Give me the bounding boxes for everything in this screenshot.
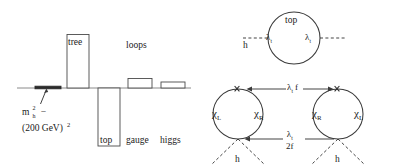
left-loop-field-left: χL xyxy=(212,108,221,122)
right-loop-higgs-leg-b xyxy=(338,139,365,165)
chi-loops-bottom-coupling-numerator-subscript: t xyxy=(291,135,293,141)
group-label-loops: loops xyxy=(126,41,147,51)
mh2-annotation-base: m xyxy=(22,107,29,117)
figure-root: tree loops top gauge higgs m 2 h − (200 … xyxy=(0,0,396,168)
mh2-annotation-gev-superscript: 2 xyxy=(63,121,70,128)
right-loop-field-left: χR xyxy=(312,108,321,122)
bar-mh2-residual xyxy=(35,86,61,89)
chi-loops-bottom-coupling-denominator: 2f xyxy=(286,141,294,151)
chi-loops-top-coupling: λtf xyxy=(287,83,298,94)
mh2-annotation-line1: m 2 h − xyxy=(22,108,46,118)
mh2-annotation-gev: (200 GeV) xyxy=(22,123,63,133)
right-loop-field-right: χL xyxy=(354,108,363,122)
annotation-pointer-arrowhead xyxy=(44,89,48,94)
group-label-tree: tree xyxy=(68,38,82,48)
top-loop-coupling-right: λt xyxy=(305,33,311,44)
mh2-annotation-superscript: 2 xyxy=(33,105,36,111)
chi-loops-top-coupling-tail: f xyxy=(293,82,298,92)
bar-label-gauge: gauge xyxy=(126,136,149,146)
chi-loops-bottom-coupling-fraction: λt 2f xyxy=(286,130,294,151)
left-loop-field-right-subscript: R xyxy=(259,114,264,121)
right-loop-field-left-subscript: R xyxy=(317,114,322,121)
bar-gauge xyxy=(128,79,152,89)
left-loop-field-left-subscript: L xyxy=(217,114,221,121)
top-loop-coupling-right-subscript: t xyxy=(309,38,311,44)
figure-canvas xyxy=(0,0,396,168)
left-loop-higgs-label: h xyxy=(235,155,240,165)
left-loop-field-right: χR xyxy=(254,108,263,122)
right-loop-higgs-label: h xyxy=(335,155,340,165)
bar-label-top: top xyxy=(100,136,112,146)
top-loop-higgs-label: h xyxy=(243,41,248,51)
top-loop-coupling-left: λt xyxy=(266,33,272,44)
left-loop-higgs-leg-b xyxy=(238,139,265,165)
top-loop-coupling-left-subscript: t xyxy=(270,38,272,44)
right-loop-higgs-leg-a xyxy=(311,139,338,165)
right-loop-field-right-subscript: L xyxy=(359,114,363,121)
top-connector-right-arrowhead xyxy=(328,87,334,92)
bar-higgs xyxy=(161,82,185,88)
bar-label-higgs: higgs xyxy=(160,136,181,146)
chi-loops-bottom-coupling-numerator: λt xyxy=(286,130,294,141)
mh2-annotation-subscript: h xyxy=(33,113,36,119)
top-loop-label: top xyxy=(285,16,297,26)
mh2-annotation-line2: (200 GeV)2 xyxy=(22,122,70,134)
left-loop-higgs-leg-a xyxy=(211,139,238,165)
